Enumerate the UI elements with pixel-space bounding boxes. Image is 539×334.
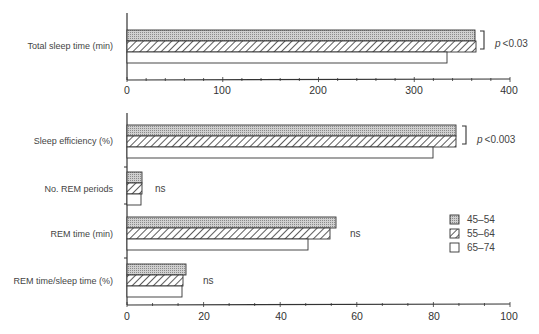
svg-text:300: 300	[405, 84, 423, 96]
top-tick-labels: 0 100 200 300 400	[124, 84, 518, 96]
p-value-eff: p<0.003	[476, 134, 516, 145]
significance-bracket-top	[480, 31, 484, 49]
legend-swatch-65-74	[450, 243, 459, 252]
bar-remt-45-54	[127, 217, 336, 228]
bar-total-65-74	[127, 52, 447, 63]
significance-bracket-eff	[462, 126, 466, 144]
ns-rem-ratio: ns	[203, 275, 214, 286]
svg-text:0: 0	[124, 310, 130, 322]
svg-text:60: 60	[351, 310, 363, 322]
bar-remp-45-54	[127, 172, 142, 183]
category-label-rem-time: REM time (min)	[51, 229, 114, 239]
bar-remt-55-64	[127, 228, 330, 239]
top-chart: Total sleep time (min) p<0.03 0 100 200 …	[27, 13, 528, 96]
chart-canvas: Total sleep time (min) p<0.03 0 100 200 …	[0, 0, 539, 334]
legend-swatch-55-64	[450, 229, 459, 238]
bar-eff-45-54	[127, 125, 456, 136]
bar-remr-65-74	[127, 286, 182, 297]
category-label-sleep-efficiency: Sleep efficiency (%)	[34, 136, 113, 146]
bar-remt-65-74	[127, 239, 308, 250]
svg-text:100: 100	[500, 310, 518, 322]
svg-text:40: 40	[275, 310, 287, 322]
bottom-tick-labels: 0 20 40 60 80 100	[124, 310, 518, 322]
bar-remp-65-74	[127, 194, 141, 205]
legend-swatch-45-54	[450, 215, 459, 224]
category-label-rem-periods: No. REM periods	[44, 184, 113, 194]
svg-text:80: 80	[428, 310, 440, 322]
bar-remp-55-64	[127, 183, 142, 194]
top-minor-ticks	[127, 77, 510, 82]
legend-label-45-54: 45–54	[467, 214, 495, 225]
bottom-x-axis	[127, 304, 510, 305]
bar-remr-45-54	[127, 264, 186, 275]
ns-rem-time: ns	[350, 228, 361, 239]
svg-text:100: 100	[213, 84, 231, 96]
legend-label-65-74: 65–74	[467, 242, 495, 253]
p-value-top: p<0.03	[494, 38, 528, 49]
category-label-total-sleep: Total sleep time (min)	[27, 41, 113, 51]
svg-text:20: 20	[198, 310, 210, 322]
svg-text:400: 400	[500, 84, 518, 96]
svg-text:0: 0	[124, 84, 130, 96]
bottom-chart: Sleep efficiency (%) p<0.003 No. REM per…	[13, 113, 517, 322]
bar-remr-55-64	[127, 275, 183, 286]
legend-label-55-64: 55–64	[467, 228, 495, 239]
category-label-rem-ratio: REM time/sleep time (%)	[13, 276, 113, 286]
svg-text:200: 200	[309, 84, 327, 96]
bar-eff-55-64	[127, 136, 456, 147]
bar-eff-65-74	[127, 147, 433, 158]
ns-rem-periods: ns	[155, 183, 166, 194]
bar-total-45-54	[127, 30, 475, 41]
legend: 45–54 55–64 65–74	[450, 214, 495, 253]
bar-total-55-64	[127, 41, 476, 52]
